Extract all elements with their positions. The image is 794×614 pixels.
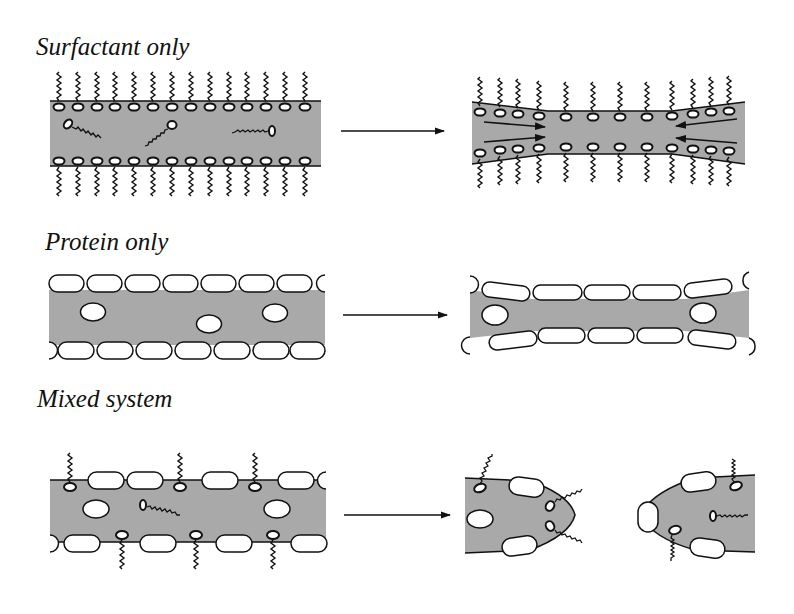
protein-before xyxy=(49,275,325,359)
surfactant-after xyxy=(472,76,745,188)
film-mechanism-diagram xyxy=(0,0,794,614)
mixed-after-left-lobe xyxy=(465,454,582,557)
surfactant-before xyxy=(50,72,321,196)
mixed-after-right-lobe xyxy=(638,459,755,561)
mixed-before xyxy=(50,453,327,569)
protein-after xyxy=(462,272,756,355)
